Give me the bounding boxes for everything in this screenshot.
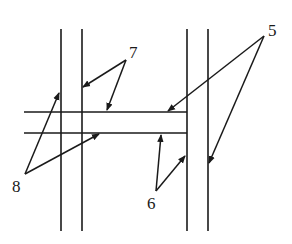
arrow-6-1: [156, 135, 161, 191]
arrow-6-2: [156, 156, 185, 191]
arrow-8-2: [25, 134, 99, 174]
diagram-canvas: 5678: [0, 0, 292, 244]
callout-labels: 5678: [12, 21, 277, 213]
horizontal-lines: [24, 112, 187, 133]
arrow-7-1: [83, 60, 126, 87]
label-6: 6: [147, 194, 156, 213]
label-5: 5: [268, 21, 277, 40]
label-8: 8: [12, 177, 21, 196]
arrow-5-2: [209, 36, 264, 163]
arrow-7-2: [107, 60, 126, 110]
arrow-5-1: [168, 36, 264, 111]
label-7: 7: [129, 43, 138, 62]
